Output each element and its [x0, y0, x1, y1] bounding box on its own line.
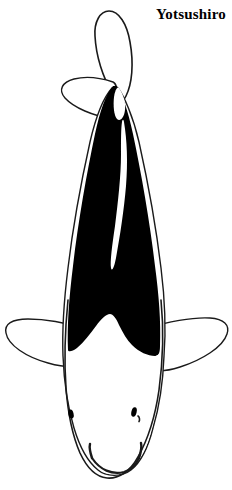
illustration-canvas: Yotsushiro — [0, 0, 232, 490]
page-title: Yotsushiro — [156, 5, 226, 23]
koi-fish-illustration — [0, 0, 232, 490]
